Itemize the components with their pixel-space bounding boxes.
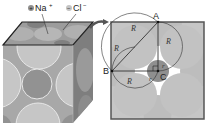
nacl-diagram: + Na + − Cl − — [0, 0, 207, 126]
label-r1: r — [162, 62, 165, 70]
svg-text:+: + — [29, 5, 33, 11]
point-B: B — [103, 66, 109, 76]
face-cross-section: A B C R R R R r r — [78, 0, 207, 126]
svg-text:Na: Na — [35, 3, 47, 13]
point-A: A — [153, 11, 159, 21]
unit-cell-cube: + Na + − Cl − — [0, 2, 109, 126]
label-R4: R — [126, 77, 132, 86]
svg-text:−: − — [83, 2, 87, 8]
point-C: C — [160, 72, 167, 82]
svg-text:−: − — [67, 5, 71, 11]
svg-text:Cl: Cl — [73, 3, 82, 13]
label-R3: R — [165, 37, 171, 46]
svg-text:+: + — [49, 2, 53, 8]
label-R1: R — [130, 24, 136, 33]
legend-na: + Na + — [28, 2, 53, 13]
label-R2: R — [113, 44, 119, 53]
label-r2: r — [149, 75, 152, 83]
legend-cl: − Cl − — [66, 2, 87, 13]
